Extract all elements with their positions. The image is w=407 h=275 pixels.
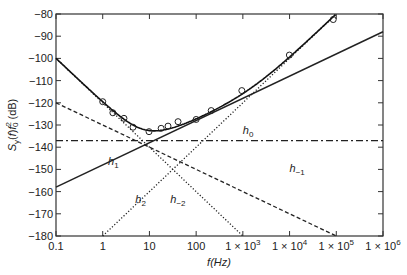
- y-tick-label: −120: [28, 97, 53, 109]
- line-h1: [56, 32, 383, 187]
- x-tick-label: 1 × 103: [225, 238, 261, 252]
- x-tick-label: 1: [100, 240, 106, 252]
- y-tick-label: −100: [28, 52, 53, 64]
- y-tick-label: −140: [28, 141, 53, 153]
- x-tick-label: 1 × 106: [365, 238, 401, 252]
- y-tick-label: −80: [34, 8, 53, 20]
- x-tick-label: 1 × 105: [319, 238, 355, 252]
- x-tick-label: 10: [143, 240, 155, 252]
- y-tick-label: −110: [29, 75, 53, 87]
- y-axis-label: Sy(f)f20 (dB): [4, 99, 21, 152]
- y-axis-label-text: Sy(f)f20 (dB): [4, 99, 21, 152]
- label-h2: h2: [135, 193, 146, 208]
- data-point: [146, 129, 152, 135]
- y-tick-label: −150: [28, 163, 53, 175]
- y-tick-label: −90: [34, 30, 53, 42]
- label-h-1: h−1: [290, 162, 306, 177]
- power-law-lines: [56, 14, 383, 236]
- data-point: [239, 88, 245, 94]
- label-h-2: h−2: [170, 193, 186, 208]
- total-curve: [56, 15, 335, 131]
- measured-points: [100, 17, 337, 135]
- label-h0: h0: [243, 124, 254, 139]
- noise-psd-chart: 0.11101001 × 1031 × 1041 × 1051 × 106−80…: [0, 0, 407, 275]
- y-tick-label: −160: [28, 186, 53, 198]
- data-point: [175, 119, 181, 125]
- x-tick-label: 1 × 104: [272, 238, 308, 252]
- x-tick-label: 100: [187, 240, 205, 252]
- chart-svg: 0.11101001 × 1031 × 1041 × 1051 × 106−80…: [0, 0, 407, 275]
- y-tick-label: −180: [28, 230, 53, 242]
- total-noise-curve: [56, 15, 335, 131]
- x-axis-label: f(Hz): [207, 256, 231, 268]
- y-tick-label: −170: [28, 208, 53, 220]
- y-tick-label: −130: [28, 119, 53, 131]
